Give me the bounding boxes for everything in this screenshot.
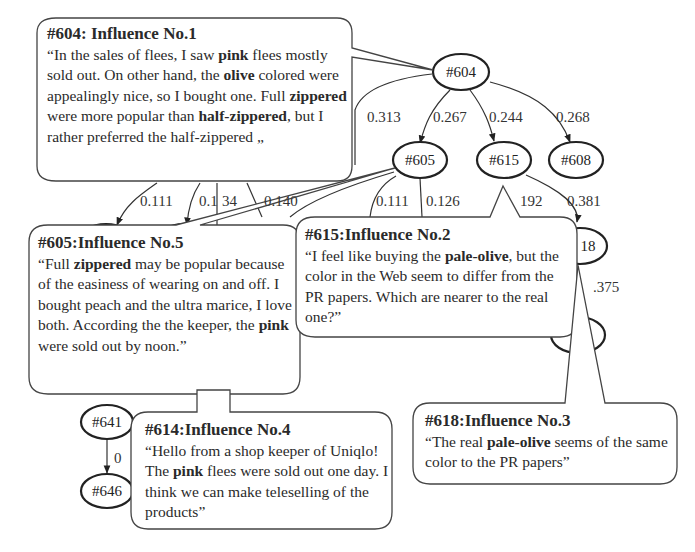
edge-label-375: .375 — [593, 279, 619, 295]
edge-label-0313: 0.313 — [367, 109, 401, 125]
bubble-614-title: #614:Influence No.4 — [145, 420, 390, 441]
edge-b604-d — [247, 183, 262, 217]
edge-label-0111b: 0.111 — [376, 193, 409, 209]
bubble-618-title: #618:Influence No.3 — [425, 411, 675, 432]
node-605-label: #605 — [405, 152, 435, 168]
node-608-label: #608 — [561, 152, 591, 168]
edge-label-0134b: 34 — [222, 193, 238, 209]
bubble-604: #604: Influence No.1 “In the sales of fl… — [47, 24, 347, 147]
node-646-label: #646 — [92, 483, 123, 499]
node-641-label: #641 — [92, 414, 122, 430]
node-615-label: #615 — [489, 152, 519, 168]
edge-605-c — [420, 178, 422, 217]
bubble-604-title: #604: Influence No.1 — [47, 24, 347, 45]
bubble-615-title: #615:Influence No.2 — [305, 225, 573, 246]
edge-label-0267: 0.267 — [433, 109, 467, 125]
node-604-label: #604 — [446, 64, 477, 80]
edge-label-0134a: 0.1 — [199, 193, 218, 209]
bubble-605: #605:Influence No.5 “Full zippered may b… — [38, 233, 296, 356]
bubble-614: #614:Influence No.4 “Hello from a shop k… — [145, 420, 390, 523]
bubble-618: #618:Influence No.3 “The real pale-olive… — [425, 411, 675, 473]
edge-label-0126: 0.126 — [426, 193, 460, 209]
edge-label-0: 0 — [114, 450, 122, 466]
edge-label-0111a: 0.111 — [140, 193, 173, 209]
bubble-615: #615:Influence No.2 “I feel like buying … — [305, 225, 573, 328]
edge-label-0140: 0.140 — [264, 193, 298, 209]
node-618-label: 18 — [581, 238, 596, 254]
edge-label-0268: 0.268 — [556, 109, 590, 125]
bubble-605-title: #605:Influence No.5 — [38, 233, 296, 254]
edge-label-0381: 0.381 — [567, 193, 601, 209]
edge-label-192: 192 — [520, 193, 543, 209]
edge-label-0244: 0.244 — [489, 109, 523, 125]
